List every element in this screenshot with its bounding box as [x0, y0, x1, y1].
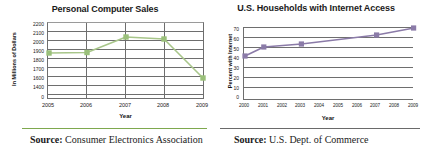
y-tick-label: 50	[225, 47, 239, 52]
x-tick-label: 2008	[148, 103, 178, 109]
source-line-left: Source: Consumer Electronics Association	[30, 134, 203, 145]
source-text-right: U.S. Dept. of Commerce	[269, 134, 368, 145]
y-tick-label: 40	[225, 56, 239, 61]
y-tick-label: 20	[225, 76, 239, 81]
y-tick-label: 0	[225, 95, 239, 100]
series-line-left	[48, 23, 205, 100]
y-tick-label: 30	[225, 66, 239, 71]
y-tick-label: 60	[225, 37, 239, 42]
source-line-right: Source: U.S. Dept. of Commerce	[234, 134, 369, 145]
y-tick-label: 1400	[26, 85, 44, 90]
source-label-left: Source:	[30, 134, 63, 145]
y-axis-title-left: In Millions of Dollars	[11, 23, 17, 95]
y-tick-label: 10	[225, 86, 239, 91]
y-tick-label: 1900	[26, 49, 44, 54]
x-tick-label: 2005	[33, 103, 63, 109]
gridline	[164, 23, 165, 98]
y-tick-label: 2100	[26, 31, 44, 36]
y-tick-label: 1800	[26, 58, 44, 63]
chart-title-left: Personal Computer Sales	[0, 4, 210, 14]
source-label-right: Source:	[234, 134, 267, 145]
y-tick-label: 1600	[26, 76, 44, 81]
y-tick-label: 2200	[26, 22, 44, 27]
gridline	[86, 23, 87, 98]
chart-panel-internet-access: U.S. Households with Internet Access Per…	[211, 0, 421, 157]
gridline	[244, 57, 413, 58]
two-chart-figure: Personal Computer Sales In Millions of D…	[0, 0, 421, 157]
gridline	[244, 47, 413, 48]
x-tick-label: 2006	[71, 103, 101, 109]
y-tick-label: 0	[26, 95, 44, 100]
x-axis-title-right: Year	[243, 115, 413, 121]
x-tick-label: 2007	[110, 103, 140, 109]
plot-area-right	[243, 27, 413, 100]
chart-title-right: U.S. Households with Internet Access	[211, 3, 421, 13]
gridline	[244, 37, 413, 38]
source-text-left: Consumer Electronics Association	[65, 134, 203, 145]
divider-right	[220, 128, 420, 129]
gridline	[125, 23, 126, 98]
x-axis-title-left: Year	[47, 113, 204, 119]
y-tick-label: 70	[225, 27, 239, 32]
plot-area-left	[47, 22, 204, 99]
y-tick-label: 1700	[26, 67, 44, 72]
gridline	[244, 87, 413, 88]
gridline	[244, 67, 413, 68]
gridline	[244, 77, 413, 78]
chart-panel-personal-computer-sales: Personal Computer Sales In Millions of D…	[0, 0, 210, 157]
y-tick-label: 2000	[26, 40, 44, 45]
divider-left	[22, 128, 207, 129]
x-tick-label: 2009	[402, 104, 421, 109]
gridline	[244, 27, 413, 28]
